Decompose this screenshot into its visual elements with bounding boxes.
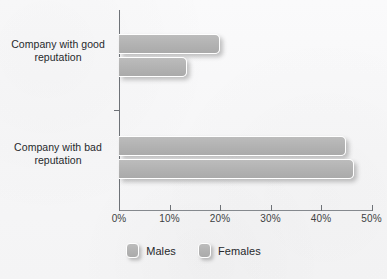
chart-legend: Males Females <box>0 243 387 258</box>
legend-entry-females[interactable]: Females <box>198 243 261 258</box>
category-label-bad-line1: Company with bad <box>2 141 114 154</box>
x-axis-tick-label: 10% <box>148 213 192 224</box>
x-axis-tick-label: 50% <box>350 213 387 224</box>
bar-bad-reputation-females[interactable] <box>119 159 354 179</box>
chart-title-clipped <box>118 0 380 2</box>
bar-good-reputation-females[interactable] <box>119 57 187 77</box>
x-axis-tick-label: 20% <box>198 213 242 224</box>
x-axis-tick-label: 30% <box>249 213 293 224</box>
category-label-good-line2: reputation <box>2 51 114 64</box>
category-label-good-reputation: Company with good reputation <box>2 38 114 64</box>
x-axis-tick-label: 40% <box>299 213 343 224</box>
x-axis-tick <box>119 205 120 211</box>
x-axis-tick <box>321 205 322 211</box>
legend-entry-males[interactable]: Males <box>126 243 176 258</box>
legend-swatch-males-icon <box>126 243 139 258</box>
legend-swatch-females-icon <box>198 243 211 258</box>
category-label-good-line1: Company with good <box>2 38 114 51</box>
legend-label-males: Males <box>146 245 176 257</box>
category-label-bad-line2: reputation <box>2 154 114 167</box>
x-axis-tick <box>170 205 171 211</box>
x-axis-tick <box>220 205 221 211</box>
bar-good-reputation-males[interactable] <box>119 34 220 54</box>
bar-bad-reputation-males[interactable] <box>119 136 346 156</box>
horizontal-bar-chart: 0%10%20%30%40%50% Company with good repu… <box>0 0 387 279</box>
x-axis-tick-label: 0% <box>97 213 141 224</box>
x-axis-tick <box>372 205 373 211</box>
x-axis-line <box>119 210 372 211</box>
y-axis-category-separator-tick <box>114 110 120 111</box>
category-label-bad-reputation: Company with bad reputation <box>2 141 114 167</box>
x-axis-tick <box>271 205 272 211</box>
legend-label-females: Females <box>218 245 261 257</box>
